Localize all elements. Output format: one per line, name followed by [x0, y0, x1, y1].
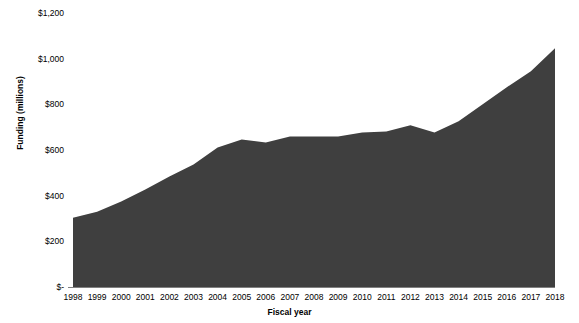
plot-area	[0, 0, 579, 323]
area-chart: Funding (millions) Fiscal year $1,200$1,…	[0, 0, 579, 323]
area-series-funding	[73, 48, 555, 287]
